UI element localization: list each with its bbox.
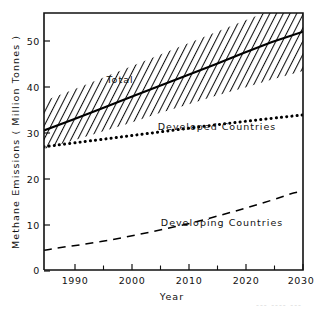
y-tick-label-10: 10 bbox=[27, 220, 40, 231]
scan-artifact: --- ---- --- bbox=[256, 301, 318, 309]
y-tick-label-0: 0 bbox=[33, 265, 40, 276]
y-axis-title: Methane Emissions ( Million Tonnes ) bbox=[10, 35, 21, 249]
x-tick-label-2010: 2010 bbox=[176, 275, 203, 286]
x-tick-label-2020: 2020 bbox=[233, 275, 260, 286]
y-axis-ticks bbox=[44, 41, 50, 271]
x-axis-tick-labels: 1990 2000 2010 2020 2030 bbox=[62, 275, 315, 286]
series-label-developing-countries: Developing Countries bbox=[161, 217, 283, 228]
x-axis-ticks bbox=[75, 264, 303, 270]
y-tick-label-40: 40 bbox=[27, 82, 40, 93]
series-label-developed-countries: Developed Countries bbox=[158, 121, 277, 132]
x-tick-label-1990: 1990 bbox=[62, 275, 89, 286]
y-tick-label-30: 30 bbox=[27, 128, 40, 139]
series-label-total: Total bbox=[105, 74, 133, 85]
y-tick-label-50: 50 bbox=[27, 36, 40, 47]
methane-emissions-chart: 0 10 20 30 40 50 1990 2000 2010 2020 203… bbox=[0, 0, 320, 312]
y-axis-tick-labels: 0 10 20 30 40 50 bbox=[27, 36, 40, 277]
x-tick-label-2000: 2000 bbox=[119, 275, 146, 286]
x-axis-title: Year bbox=[159, 291, 185, 302]
y-tick-label-20: 20 bbox=[27, 174, 40, 185]
chart-figure: 0 10 20 30 40 50 1990 2000 2010 2020 203… bbox=[0, 0, 320, 312]
x-tick-label-2030: 2030 bbox=[288, 275, 315, 286]
